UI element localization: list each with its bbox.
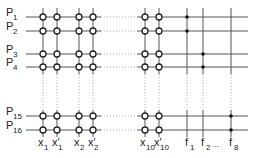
connection-dot-icon [185, 15, 189, 19]
open-node-icon [40, 127, 46, 133]
open-node-icon [54, 51, 60, 57]
column-label-sub: 1 [190, 143, 195, 152]
open-node-icon [54, 28, 60, 34]
open-node-icon [142, 28, 148, 34]
row-label-sub: 15 [13, 112, 22, 121]
open-node-icon [54, 14, 60, 20]
connection-dot-icon [185, 29, 189, 33]
column-label-f2: f [201, 136, 205, 148]
connection-dot-icon [229, 128, 233, 132]
open-node-icon [142, 113, 148, 119]
open-node-icon [90, 127, 96, 133]
open-node-icon [54, 113, 60, 119]
row-label-sub: 4 [13, 63, 18, 72]
open-node-icon [142, 14, 148, 20]
open-node-icon [76, 14, 82, 20]
open-node-icon [156, 51, 162, 57]
connection-dot-icon [229, 114, 233, 118]
open-node-icon [54, 64, 60, 70]
column-label-f8: f [229, 136, 233, 148]
open-node-icon [142, 64, 148, 70]
row-label-sub: 2 [13, 27, 18, 36]
open-node-icon [76, 127, 82, 133]
open-node-icon [76, 28, 82, 34]
open-node-icon [90, 64, 96, 70]
connection-dot-icon [201, 52, 205, 56]
column-label-sub: 2 [80, 143, 85, 152]
column-label-sub: 8 [234, 143, 239, 152]
column-label-sub: 2 [206, 143, 211, 152]
open-node-icon [156, 113, 162, 119]
row-label-sub: 1 [13, 13, 18, 22]
open-node-icon [142, 127, 148, 133]
open-node-icon [40, 28, 46, 34]
open-node-icon [156, 127, 162, 133]
open-node-icon [76, 64, 82, 70]
open-node-icon [156, 64, 162, 70]
open-node-icon [40, 64, 46, 70]
column-label-sub: 10 [160, 143, 169, 152]
open-node-icon [156, 14, 162, 20]
ellipsis-label: ... [212, 140, 219, 149]
open-node-icon [40, 51, 46, 57]
open-node-icon [90, 14, 96, 20]
open-node-icon [54, 127, 60, 133]
open-node-icon [76, 113, 82, 119]
open-node-icon [40, 113, 46, 119]
column-label-f1: f [185, 136, 189, 148]
row-label-sub: 3 [13, 50, 18, 59]
open-node-icon [142, 51, 148, 57]
open-node-icon [90, 28, 96, 34]
column-label-sub: 1 [58, 143, 63, 152]
connection-dot-icon [201, 65, 205, 69]
column-label-sub: 2 [94, 143, 99, 152]
open-node-icon [90, 51, 96, 57]
open-node-icon [90, 113, 96, 119]
column-label-sub: 1 [44, 143, 49, 152]
crossbar-diagram: P1P2P3P4P15P16x1x′1x2x′2x10x′10f1f2f8... [0, 0, 256, 158]
open-node-icon [156, 28, 162, 34]
open-node-icon [76, 51, 82, 57]
row-label-sub: 16 [13, 126, 22, 135]
open-node-icon [40, 14, 46, 20]
